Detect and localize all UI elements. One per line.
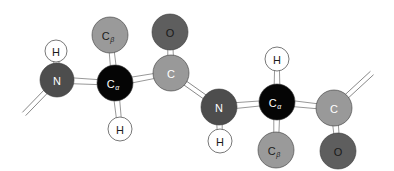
atom-o1-o: O: [152, 14, 188, 50]
atom-h2-h: H: [108, 117, 132, 141]
atom-c2-c: C: [316, 90, 352, 126]
atom-cb2-c-beta: Cβ: [258, 132, 294, 168]
atoms-layer: NHCβCαHOCNHCαHCβCO: [40, 14, 356, 169]
atom-label: O: [334, 146, 343, 158]
atom-n2-n: N: [201, 89, 237, 125]
atom-label: H: [52, 46, 60, 58]
atom-c1-c: C: [153, 55, 189, 91]
atom-label: H: [116, 124, 124, 136]
atom-h1-h: H: [45, 40, 67, 62]
peptide-backbone-diagram: NHCβCαHOCNHCαHCβCO: [0, 0, 394, 171]
atom-cb1-c-beta: Cβ: [92, 17, 128, 53]
atom-label: O: [166, 27, 175, 39]
atom-label: N: [215, 102, 223, 114]
atom-label: C: [330, 103, 338, 115]
atom-n1-n: N: [40, 63, 74, 97]
atom-label: H: [216, 136, 224, 148]
bonds-layer: [22, 32, 373, 151]
atom-ca2-c-alpha: Cα: [259, 84, 295, 120]
atom-label: C: [167, 68, 175, 80]
atom-h4-h: H: [265, 47, 289, 71]
atom-label: N: [53, 75, 61, 87]
atom-o2-o: O: [320, 133, 356, 169]
atom-h3-h: H: [208, 129, 232, 153]
atom-ca1-c-alpha: Cα: [97, 65, 133, 101]
atom-label: H: [273, 54, 281, 66]
